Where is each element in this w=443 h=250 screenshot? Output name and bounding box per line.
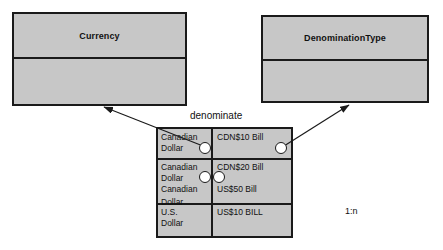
table-column-divider	[211, 129, 213, 236]
class-attributes-compartment-denominationtype	[263, 61, 427, 101]
table-row-divider-1	[158, 158, 291, 160]
table-cell-r3c2: US$50 Bill	[217, 184, 257, 195]
connector-dot-currency-r1[interactable]	[199, 142, 211, 154]
table-cell-r2c1-line2: Dollar	[161, 173, 183, 184]
connector-line-to-denominationtype	[284, 105, 349, 146]
table-cell-r3c1-line1: Canadian	[161, 184, 197, 195]
table-cell-r1c2: CDN$10 Bill	[217, 132, 263, 143]
instance-table[interactable]: Canadian Dollar Canadian Dollar Canadian…	[156, 127, 293, 238]
cardinality-label: 1:n	[345, 206, 358, 216]
class-box-currency[interactable]: Currency	[12, 12, 187, 106]
connector-dot-denomination-r1[interactable]	[275, 142, 287, 154]
class-box-denominationtype[interactable]: DenominationType	[261, 15, 429, 103]
table-cell-r4c1-line2: Dollar	[161, 218, 183, 229]
association-label-denominate: denominate	[190, 110, 242, 121]
class-name-denominationtype: DenominationType	[304, 33, 386, 43]
class-name-currency: Currency	[79, 31, 119, 41]
diagram-canvas: Currency DenominationType denominate 1:n…	[0, 0, 443, 250]
table-cell-r2c1-line1: Canadian	[161, 162, 197, 173]
class-title-compartment-currency: Currency	[14, 14, 185, 59]
class-attributes-compartment-currency	[14, 59, 185, 104]
table-cell-r1c1-line2: Dollar	[161, 143, 183, 154]
class-title-compartment-denominationtype: DenominationType	[263, 17, 427, 61]
connector-dot-denomination-r2[interactable]	[213, 171, 225, 183]
table-cell-r4c2: US$10 BILL	[217, 207, 263, 218]
connector-dot-currency-r2[interactable]	[199, 171, 211, 183]
table-cell-r2c2: CDN$20 Bill	[217, 162, 263, 173]
table-cell-r1c1-line1: Canadian	[161, 132, 197, 143]
table-cell-r4c1-line1: U.S.	[161, 207, 178, 218]
